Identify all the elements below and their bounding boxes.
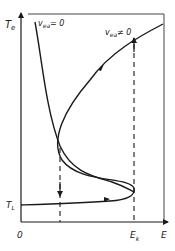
origin-label: 0 bbox=[17, 230, 23, 240]
arrow-on-upper-branch bbox=[98, 64, 104, 71]
plot-frame bbox=[28, 14, 164, 222]
curve-zero-label: vea= 0 bbox=[38, 19, 64, 29]
y-axis-label: Te bbox=[5, 19, 15, 32]
curve-vea-nonzero bbox=[21, 24, 163, 205]
critical-field-label: Ek bbox=[130, 230, 140, 242]
curve-vea-zero bbox=[35, 22, 134, 192]
low-temp-label: TL bbox=[6, 200, 15, 211]
curve-nonzero-label: vea≠ 0 bbox=[105, 28, 131, 38]
electron-temperature-diagram: Te vea= 0 vea≠ 0 TL 0 Ek E bbox=[0, 0, 175, 251]
axes bbox=[21, 13, 168, 222]
dashed-guides bbox=[60, 38, 134, 222]
x-axis-label: E bbox=[161, 230, 167, 240]
